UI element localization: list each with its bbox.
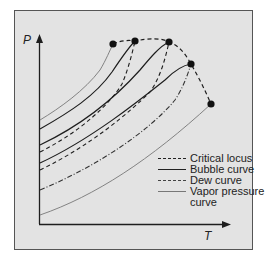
bubble-curves — [40, 41, 191, 163]
thin-gray-line-icon — [158, 191, 186, 192]
legend-item-continuation: curve — [158, 197, 264, 208]
vapor-pressure-curve-1 — [40, 44, 113, 120]
critical-points — [109, 37, 214, 107]
x-axis-arrow-icon — [222, 221, 231, 228]
critical-point-icon — [207, 100, 214, 107]
critical-point-icon — [187, 60, 194, 67]
phase-diagram — [0, 0, 269, 262]
dash-dot-line-icon — [158, 180, 186, 181]
legend: Critical locus Bubble curve Dew curve Va… — [158, 153, 264, 208]
critical-point-icon — [109, 40, 116, 47]
critical-locus — [113, 39, 211, 104]
bubble-curve-3 — [40, 64, 191, 163]
y-axis-arrow-icon — [36, 34, 43, 43]
dashed-line-icon — [158, 158, 186, 159]
bubble-curve-2 — [40, 42, 169, 145]
x-axis-label: T — [204, 229, 211, 243]
solid-line-icon — [158, 169, 186, 170]
dew-curve-1 — [40, 41, 135, 152]
critical-point-icon — [131, 37, 138, 44]
y-axis-label: P — [23, 33, 31, 47]
critical-point-icon — [165, 38, 172, 45]
